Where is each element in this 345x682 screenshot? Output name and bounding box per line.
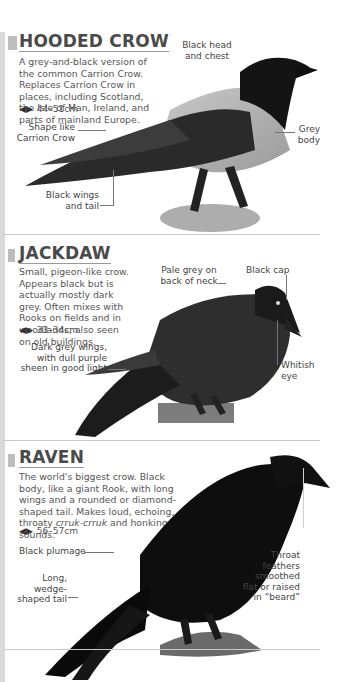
label-black-wings-tail: Black wings and tail xyxy=(45,190,99,211)
label-pale-grey-neck: Pale grey on back of neck xyxy=(160,265,218,286)
label-black-plumage: Black plumage xyxy=(19,546,86,557)
leader-line xyxy=(218,283,226,284)
label-throat-feathers: Throat feathers smoothed flat or raised … xyxy=(238,550,300,603)
section-divider xyxy=(4,649,320,650)
leader-line xyxy=(277,320,278,365)
label-black-head-chest: Black head and chest xyxy=(182,40,232,61)
label-grey-body: Grey body xyxy=(296,124,320,145)
leader-line xyxy=(108,369,126,370)
leader-line xyxy=(275,132,295,133)
leader-line xyxy=(113,170,114,205)
leader-line xyxy=(78,130,106,131)
label-shape-like-carrion: Shape like Carrion Crow xyxy=(15,122,75,143)
leader-line xyxy=(68,597,78,598)
leader-line xyxy=(84,552,114,553)
section-edge-line xyxy=(303,468,304,528)
label-dark-grey-wings: Dark grey wings, with dull purple sheen … xyxy=(15,342,107,374)
section-divider xyxy=(4,440,320,441)
leader-line xyxy=(100,205,114,206)
label-black-cap: Black cap xyxy=(246,265,289,276)
jackdaw-illustration xyxy=(0,225,345,455)
label-whitish-eye: Whitish eye xyxy=(281,360,311,381)
label-wedge-shaped-tail: Long, wedge-shaped tail xyxy=(15,573,67,605)
leader-line xyxy=(286,275,287,300)
